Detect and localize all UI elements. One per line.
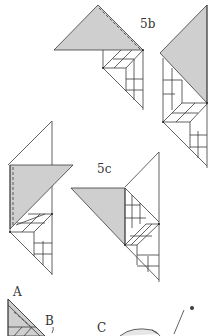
grid-line	[131, 224, 152, 245]
vertex-dot	[142, 49, 144, 51]
vertex-dot	[51, 213, 53, 215]
label-b: B	[45, 314, 54, 328]
vertex-dot	[158, 223, 160, 225]
label-c: C	[97, 321, 106, 335]
edge	[137, 224, 159, 245]
vertex-dot	[9, 231, 11, 233]
edge	[8, 121, 52, 165]
origami-fold-diagram: 5b	[0, 0, 223, 336]
figure-5b-step1	[54, 5, 144, 110]
label-5c: 5c	[97, 162, 112, 176]
edge	[125, 245, 159, 280]
figure-5c-step2	[71, 152, 160, 282]
pin-head	[190, 306, 194, 310]
vertex-dot	[102, 67, 104, 69]
label-5b: 5b	[140, 17, 156, 31]
vertex-dot	[124, 244, 126, 246]
vertex-dot	[162, 121, 164, 123]
edge	[163, 122, 207, 166]
shaded-flap	[54, 5, 143, 50]
figure-5b-step2	[160, 5, 208, 168]
shaded-flap	[160, 5, 207, 103]
vertex-dot	[206, 102, 208, 104]
pin-shaft	[174, 310, 184, 334]
shaded-flap	[71, 188, 125, 245]
label-a: A	[12, 285, 22, 299]
edge	[10, 232, 52, 274]
figure-5c-step1	[8, 121, 73, 275]
edge	[125, 224, 146, 245]
edge	[125, 152, 159, 187]
edge	[103, 68, 143, 108]
shaded-flap	[10, 165, 73, 229]
